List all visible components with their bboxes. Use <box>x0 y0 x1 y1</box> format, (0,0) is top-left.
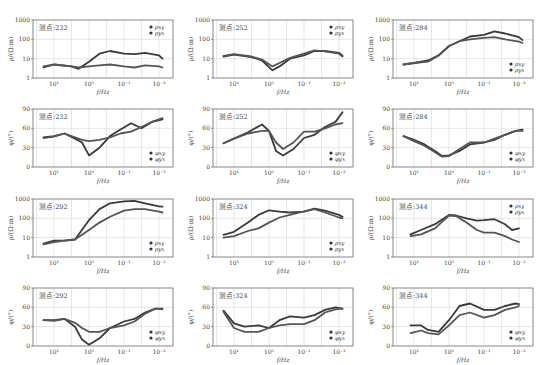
svg-text:60: 60 <box>22 124 30 131</box>
svg-text:测点:284: 测点:284 <box>399 113 428 121</box>
svg-text:φ/(°): φ/(°) <box>187 309 195 325</box>
svg-text:1: 1 <box>206 74 210 81</box>
svg-text:10⁻¹: 10⁻¹ <box>477 348 490 355</box>
svg-text:10⁻¹: 10⁻¹ <box>297 80 310 87</box>
svg-text:f/Hz: f/Hz <box>96 177 110 185</box>
svg-text:ρyx: ρyx <box>334 246 345 253</box>
svg-text:10¹: 10¹ <box>409 169 419 176</box>
svg-text:10⁰: 10⁰ <box>84 169 95 176</box>
svg-text:φyx: φyx <box>335 156 346 163</box>
svg-text:60: 60 <box>22 303 30 310</box>
svg-text:10¹: 10¹ <box>49 259 59 266</box>
svg-text:10⁰: 10⁰ <box>264 348 275 355</box>
svg-text:10⁻²: 10⁻² <box>152 169 166 176</box>
svg-text:0: 0 <box>206 342 210 349</box>
svg-text:0: 0 <box>26 342 30 349</box>
svg-text:10⁻¹: 10⁻¹ <box>117 169 130 176</box>
chart-panel-phi: 030609010¹10⁰10⁻¹10⁻²f/Hzφ/(°)测点:344φxyφ… <box>360 282 535 365</box>
svg-text:10: 10 <box>202 55 210 62</box>
svg-text:60: 60 <box>202 124 210 131</box>
svg-text:1000: 1000 <box>195 16 210 23</box>
svg-text:30: 30 <box>22 323 30 330</box>
svg-text:90: 90 <box>382 105 390 112</box>
svg-text:10⁻¹: 10⁻¹ <box>117 348 130 355</box>
svg-text:ρyx: ρyx <box>154 246 165 253</box>
svg-text:10¹: 10¹ <box>229 348 239 355</box>
svg-text:f/Hz: f/Hz <box>456 356 470 364</box>
svg-text:ρ/(Ω·m): ρ/(Ω·m) <box>187 215 195 240</box>
svg-text:10¹: 10¹ <box>409 259 419 266</box>
svg-text:1000: 1000 <box>375 195 390 202</box>
svg-text:10¹: 10¹ <box>49 80 59 87</box>
svg-text:f/Hz: f/Hz <box>276 356 290 364</box>
svg-text:30: 30 <box>202 144 210 151</box>
svg-text:30: 30 <box>382 144 390 151</box>
svg-text:10⁻²: 10⁻² <box>152 348 166 355</box>
svg-text:10⁻¹: 10⁻¹ <box>117 80 130 87</box>
svg-text:90: 90 <box>202 284 210 291</box>
svg-text:测点:292: 测点:292 <box>39 292 68 300</box>
svg-text:φ/(°): φ/(°) <box>7 130 15 146</box>
svg-text:ρ/(Ω·m): ρ/(Ω·m) <box>367 215 375 240</box>
svg-text:10⁻¹: 10⁻¹ <box>297 169 310 176</box>
svg-text:f/Hz: f/Hz <box>276 267 290 275</box>
svg-text:100: 100 <box>379 214 391 221</box>
svg-text:测点:284: 测点:284 <box>399 24 428 32</box>
svg-text:100: 100 <box>19 214 31 221</box>
svg-text:测点:292: 测点:292 <box>39 203 68 211</box>
svg-text:60: 60 <box>382 124 390 131</box>
svg-text:100: 100 <box>379 35 391 42</box>
svg-text:f/Hz: f/Hz <box>276 88 290 96</box>
svg-text:ρyx: ρyx <box>154 30 165 37</box>
svg-text:0: 0 <box>26 163 30 170</box>
svg-text:1: 1 <box>26 253 30 260</box>
svg-text:10¹: 10¹ <box>49 169 59 176</box>
svg-text:1000: 1000 <box>375 16 390 23</box>
svg-text:ρyx: ρyx <box>514 67 525 74</box>
svg-text:测点:232: 测点:232 <box>39 113 68 121</box>
chart-panel-rho: 110100100010¹10⁰10⁻¹10⁻²f/Hzρ/(Ω·m)测点:34… <box>360 193 535 283</box>
svg-text:ρ/(Ω·m): ρ/(Ω·m) <box>367 36 375 61</box>
svg-text:100: 100 <box>19 35 31 42</box>
svg-text:f/Hz: f/Hz <box>456 88 470 96</box>
svg-text:f/Hz: f/Hz <box>456 177 470 185</box>
svg-text:60: 60 <box>202 303 210 310</box>
chart-panel-rho: 110100100010¹10⁰10⁻¹10⁻²f/Hzρ/(Ω·m)测点:23… <box>0 14 175 104</box>
svg-text:测点:252: 测点:252 <box>219 24 248 32</box>
svg-text:0: 0 <box>386 342 390 349</box>
chart-panel-rho: 110100100010¹10⁰10⁻¹10⁻²f/Hzρ/(Ω·m)测点:25… <box>180 14 355 104</box>
svg-text:10⁻²: 10⁻² <box>512 259 526 266</box>
svg-text:φyx: φyx <box>155 335 166 342</box>
svg-text:10⁻¹: 10⁻¹ <box>477 169 490 176</box>
svg-text:10⁻¹: 10⁻¹ <box>117 259 130 266</box>
chart-panel-rho: 110100100010¹10⁰10⁻¹10⁻²f/Hzρ/(Ω·m)测点:28… <box>360 14 535 104</box>
svg-text:1: 1 <box>386 253 390 260</box>
svg-text:测点:344: 测点:344 <box>399 203 428 211</box>
svg-text:90: 90 <box>202 105 210 112</box>
svg-text:90: 90 <box>22 284 30 291</box>
svg-text:ρ/(Ω·m): ρ/(Ω·m) <box>187 36 195 61</box>
svg-text:100: 100 <box>199 35 211 42</box>
svg-text:测点:344: 测点:344 <box>399 292 428 300</box>
svg-text:φyx: φyx <box>155 156 166 163</box>
svg-text:0: 0 <box>386 163 390 170</box>
svg-text:10⁻²: 10⁻² <box>332 169 346 176</box>
svg-text:100: 100 <box>199 214 211 221</box>
svg-text:1000: 1000 <box>15 16 30 23</box>
svg-text:1: 1 <box>26 74 30 81</box>
chart-panel-rho: 110100100010¹10⁰10⁻¹10⁻²f/Hzρ/(Ω·m)测点:29… <box>0 193 175 283</box>
svg-text:1: 1 <box>206 253 210 260</box>
svg-text:测点:324: 测点:324 <box>219 203 248 211</box>
svg-text:φyx: φyx <box>335 335 346 342</box>
svg-text:10¹: 10¹ <box>49 348 59 355</box>
svg-text:10⁰: 10⁰ <box>264 80 275 87</box>
svg-text:f/Hz: f/Hz <box>96 88 110 96</box>
svg-text:10: 10 <box>202 234 210 241</box>
svg-text:10⁰: 10⁰ <box>264 259 275 266</box>
svg-text:10⁰: 10⁰ <box>444 348 455 355</box>
svg-text:10¹: 10¹ <box>229 80 239 87</box>
svg-text:10¹: 10¹ <box>409 80 419 87</box>
svg-text:10⁻²: 10⁻² <box>152 80 166 87</box>
svg-text:测点:324: 测点:324 <box>219 292 248 300</box>
svg-text:10⁻²: 10⁻² <box>332 80 346 87</box>
